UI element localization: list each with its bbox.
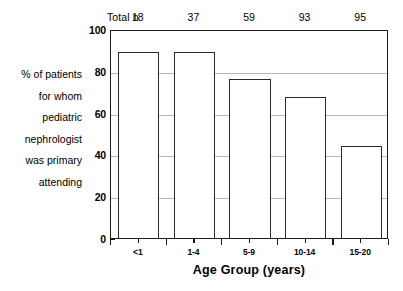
y-axis-tick-label: 80 bbox=[95, 66, 106, 78]
x-axis-tick-labels: <11-45-910-1415-20 bbox=[110, 247, 388, 261]
total-n-value: 59 bbox=[243, 11, 255, 23]
bar bbox=[118, 52, 159, 238]
x-axis-tick-mark-minor bbox=[193, 239, 194, 243]
total-n-row: Total n 1837599395 bbox=[0, 11, 403, 26]
y-axis-label-line: attending bbox=[4, 172, 82, 194]
y-axis-label-line: % of patients bbox=[4, 64, 82, 86]
bar bbox=[229, 79, 270, 238]
x-axis-tick-mark-minor bbox=[138, 239, 139, 243]
x-axis-tick-label: 5-9 bbox=[243, 247, 255, 257]
total-n-value: 37 bbox=[188, 11, 200, 23]
y-axis-tick-label: 0 bbox=[100, 233, 106, 245]
total-n-value: 18 bbox=[132, 11, 144, 23]
x-axis-tick-label: 15-20 bbox=[350, 247, 371, 257]
x-axis-tick-mark bbox=[277, 239, 278, 245]
x-axis-tick-mark-minor bbox=[360, 239, 361, 243]
y-axis-label-line: nephrologist bbox=[4, 129, 82, 151]
y-axis-tick-label: 100 bbox=[89, 24, 106, 36]
bar bbox=[341, 146, 382, 238]
y-axis-tick-label: 40 bbox=[95, 149, 106, 161]
x-axis-tick-mark bbox=[166, 239, 167, 245]
y-axis-tick-labels: 100806040200 bbox=[84, 30, 106, 239]
y-axis-label-line: for whom bbox=[4, 86, 82, 108]
x-axis-tick-mark bbox=[110, 239, 111, 245]
x-axis-tick-mark bbox=[332, 239, 333, 245]
x-axis-tick-mark-minor bbox=[305, 239, 306, 243]
y-axis-label-block: % of patientsfor whompediatricnephrologi… bbox=[4, 64, 82, 193]
y-axis-label-line: was primary bbox=[4, 150, 82, 172]
total-n-value: 93 bbox=[299, 11, 311, 23]
x-axis-tick-marks bbox=[110, 239, 388, 245]
x-axis-title: Age Group (years) bbox=[110, 263, 388, 277]
y-axis-label-line: pediatric bbox=[4, 107, 82, 129]
x-axis-tick-label: 1-4 bbox=[187, 247, 199, 257]
x-axis-tick-mark bbox=[221, 239, 222, 245]
bar-chart-figure: Total n 1837599395 % of patientsfor whom… bbox=[0, 0, 403, 291]
y-axis-tick-label: 60 bbox=[95, 108, 106, 120]
plot-inner bbox=[111, 31, 387, 238]
x-axis-tick-label: 10-14 bbox=[294, 247, 315, 257]
x-axis-tick-label: <1 bbox=[133, 247, 143, 257]
bar bbox=[174, 52, 215, 238]
y-axis-tick-label: 20 bbox=[95, 191, 106, 203]
total-n-value: 95 bbox=[354, 11, 366, 23]
x-axis-tick-mark-minor bbox=[249, 239, 250, 243]
bar bbox=[285, 97, 326, 238]
x-axis-tick-mark bbox=[388, 239, 389, 245]
plot-area bbox=[110, 30, 388, 239]
